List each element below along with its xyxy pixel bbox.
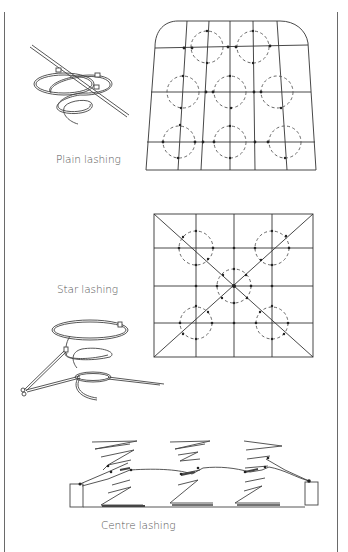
centre-lashing-diagram — [70, 441, 318, 507]
lashing-illustrations — [0, 0, 348, 552]
plain-lashing-grid-diagram — [146, 21, 316, 170]
star-lashing-knot-drawing — [21, 320, 164, 400]
star-lashing-grid-diagram — [154, 214, 313, 357]
plain-lashing-caption: Plain lashing — [56, 153, 121, 165]
plain-lashing-knot-drawing — [30, 45, 129, 124]
star-lashing-caption: Star lashing — [57, 283, 118, 295]
centre-lashing-caption: Centre lashing — [101, 519, 175, 531]
